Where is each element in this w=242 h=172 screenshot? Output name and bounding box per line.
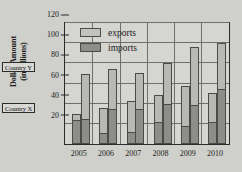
x-axis-tick-label: 2009	[180, 149, 196, 158]
bar-country-x-2010	[208, 93, 217, 144]
x-axis-tick-label: 2005	[71, 149, 87, 158]
x-axis-tick-label: 2006	[98, 149, 114, 158]
bar-country-y-2008	[163, 63, 172, 144]
category-divider	[201, 23, 202, 144]
y-axis-tick-label: 60	[39, 70, 65, 79]
y-axis-tick-label: 120	[39, 10, 65, 19]
legend-swatch-imports-icon	[80, 43, 101, 52]
bar-chart: Dollar Amount (in billions) 204060801001…	[0, 0, 242, 172]
bar-country-y-2006	[108, 69, 117, 144]
legend-item-exports: exports	[80, 26, 137, 39]
bar-country-y-2009	[190, 47, 199, 144]
bar-country-x-2008	[154, 95, 163, 144]
bar-country-x-2007	[127, 101, 136, 144]
category-divider	[147, 23, 148, 144]
annotation-country-x: Country X	[2, 103, 35, 113]
bar-country-x-2006	[99, 108, 108, 144]
bar-country-y-2006-imports-segment	[108, 109, 117, 144]
legend: exports imports	[80, 26, 137, 56]
bar-country-x-2007-imports-segment	[127, 132, 136, 144]
x-axis-tick-label: 2008	[152, 149, 168, 158]
legend-label-exports: exports	[108, 28, 136, 38]
bar-country-y-2005-imports-segment	[81, 119, 90, 144]
bar-country-x-2009-imports-segment	[181, 126, 190, 144]
legend-item-imports: imports	[80, 41, 137, 54]
legend-label-imports: imports	[108, 43, 137, 53]
y-axis-tick-label: 80	[39, 50, 65, 59]
x-axis-tick-label: 2010	[207, 149, 223, 158]
y-axis-tick-label: 20	[39, 110, 65, 119]
bar-country-x-2008-imports-segment	[154, 122, 163, 144]
y-axis-tick-label: 100	[39, 30, 65, 39]
legend-swatch-exports-icon	[80, 28, 101, 37]
bar-country-x-2006-imports-segment	[99, 133, 108, 144]
bar-country-x-2005	[72, 114, 81, 144]
bar-country-y-2005	[81, 74, 90, 144]
bar-country-y-2007	[135, 73, 144, 144]
bar-country-x-2005-imports-segment	[72, 120, 81, 144]
bar-country-y-2009-imports-segment	[190, 105, 199, 144]
bar-country-y-2010	[217, 43, 226, 144]
bar-country-y-2007-imports-segment	[135, 109, 144, 144]
bar-country-x-2010-imports-segment	[208, 122, 217, 144]
bar-country-y-2010-imports-segment	[217, 89, 226, 144]
bar-country-y-2008-imports-segment	[163, 104, 172, 144]
bar-country-x-2009	[181, 86, 190, 144]
x-axis-tick-label: 2007	[125, 149, 141, 158]
annotation-country-y: Country Y	[2, 62, 35, 72]
y-axis-tick-label: 40	[39, 90, 65, 99]
category-divider	[174, 23, 175, 144]
